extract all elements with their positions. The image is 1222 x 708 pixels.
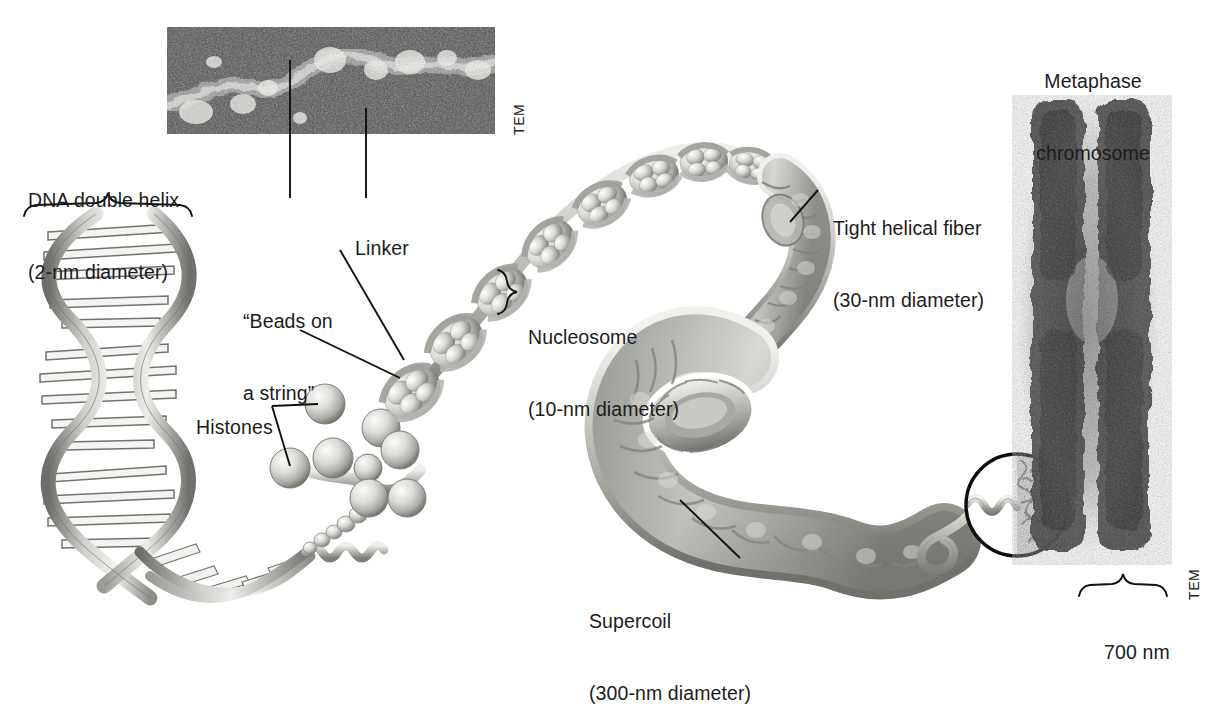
label-tight-helical-fiber: Tight helical fiber (30-nm diameter)	[833, 168, 984, 360]
tem-credit-top: TEM	[511, 104, 527, 135]
tem-credit-right: TEM	[1186, 569, 1202, 600]
chromatin-tem-micrograph	[167, 27, 495, 134]
label-dna-double-helix: DNA double helix (2-nm diameter)	[28, 140, 179, 332]
label-scale-700nm: 700 nm	[1082, 616, 1170, 688]
scale-bracket-700nm	[1079, 574, 1167, 596]
label-nucleosome: Nucleosome (10-nm diameter)	[528, 277, 679, 469]
label-metaphase-chromosome: Metaphase chromosome	[1018, 21, 1168, 213]
label-supercoil: Supercoil (300-nm diameter)	[589, 561, 751, 708]
label-histones: Histones	[174, 391, 273, 463]
label-linker: Linker	[333, 212, 409, 284]
